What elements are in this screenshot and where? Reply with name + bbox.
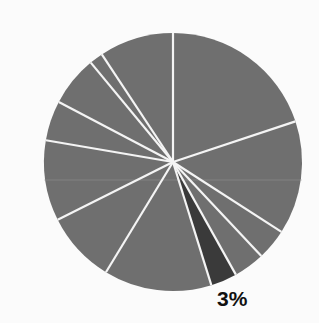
slice-percent-label: 3% [217, 287, 248, 310]
pie-chart: 3% [0, 0, 319, 323]
